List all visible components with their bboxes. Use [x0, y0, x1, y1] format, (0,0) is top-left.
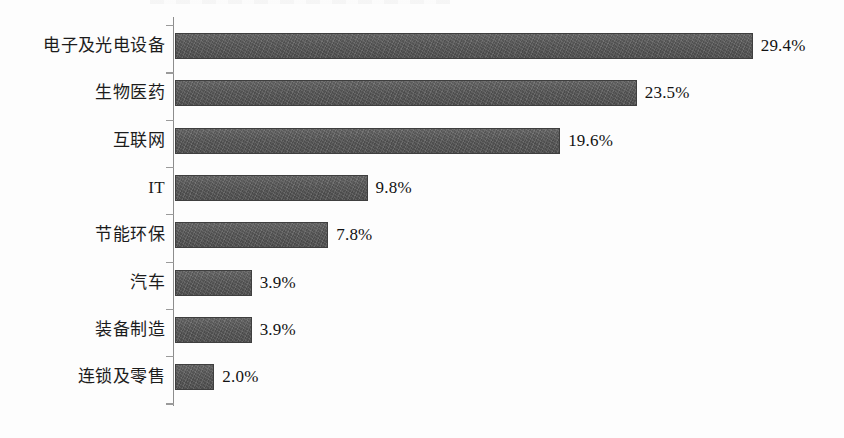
category-label: IT: [0, 173, 165, 203]
category-label: 节能环保: [0, 220, 165, 250]
category-label: 电子及光电设备: [0, 31, 165, 61]
axis-tick: [166, 72, 174, 73]
bar-row: 生物医药23.5%: [0, 78, 844, 108]
category-label: 汽车: [0, 268, 165, 298]
axis-tick: [166, 25, 174, 26]
bar-row: 汽车3.9%: [0, 268, 844, 298]
plot-area: 电子及光电设备29.4%生物医药23.5%互联网19.6%IT9.8%节能环保7…: [0, 0, 844, 438]
bar: [175, 364, 214, 390]
axis-tick: [166, 309, 174, 310]
category-label: 连锁及零售: [0, 362, 165, 392]
bar: [175, 222, 328, 248]
bar-row: 电子及光电设备29.4%: [0, 31, 844, 61]
bar-row: 装备制造3.9%: [0, 315, 844, 345]
bar-value-label: 7.8%: [336, 222, 372, 248]
bar-row: IT9.8%: [0, 173, 844, 203]
axis-tick: [166, 120, 174, 121]
category-label: 生物医药: [0, 78, 165, 108]
category-label: 装备制造: [0, 315, 165, 345]
bar-value-label: 3.9%: [260, 270, 296, 296]
bar-chart: 电子及光电设备29.4%生物医药23.5%互联网19.6%IT9.8%节能环保7…: [0, 0, 844, 438]
bar: [175, 317, 252, 343]
y-axis-line: [173, 17, 174, 406]
bar: [175, 33, 753, 59]
axis-tick: [166, 262, 174, 263]
bar-row: 连锁及零售2.0%: [0, 362, 844, 392]
axis-tick: [166, 167, 174, 168]
bar-value-label: 23.5%: [645, 80, 690, 106]
bar: [175, 80, 637, 106]
axis-tick: [166, 356, 174, 357]
axis-tick: [166, 214, 174, 215]
bar: [175, 128, 560, 154]
category-label: 互联网: [0, 126, 165, 156]
bar-value-label: 9.8%: [376, 175, 412, 201]
bar-value-label: 19.6%: [568, 128, 613, 154]
bar-value-label: 3.9%: [260, 317, 296, 343]
bar: [175, 175, 368, 201]
bar: [175, 270, 252, 296]
bar-value-label: 29.4%: [761, 33, 806, 59]
bar-row: 互联网19.6%: [0, 126, 844, 156]
axis-tick: [166, 403, 174, 404]
bar-value-label: 2.0%: [222, 364, 258, 390]
bar-row: 节能环保7.8%: [0, 220, 844, 250]
